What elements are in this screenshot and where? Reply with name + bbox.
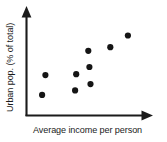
scatter-plot-figure: Average income per person Urban pop. (% … [0,0,167,142]
chart-canvas: Average income per person Urban pop. (% … [0,0,167,142]
data-point [73,71,79,77]
data-point [86,64,92,70]
data-point [42,72,48,78]
y-axis-arrowhead [22,6,32,18]
data-point-group [39,32,131,98]
x-axis-title: Average income per person [33,125,142,135]
y-axis-title: Urban pop. (% of total) [5,23,15,112]
x-axis-arrowhead [142,111,154,121]
data-point [107,44,113,50]
data-point [72,87,78,93]
data-point [125,32,131,38]
data-point [87,81,93,87]
data-point [39,92,45,98]
data-point [85,48,91,54]
